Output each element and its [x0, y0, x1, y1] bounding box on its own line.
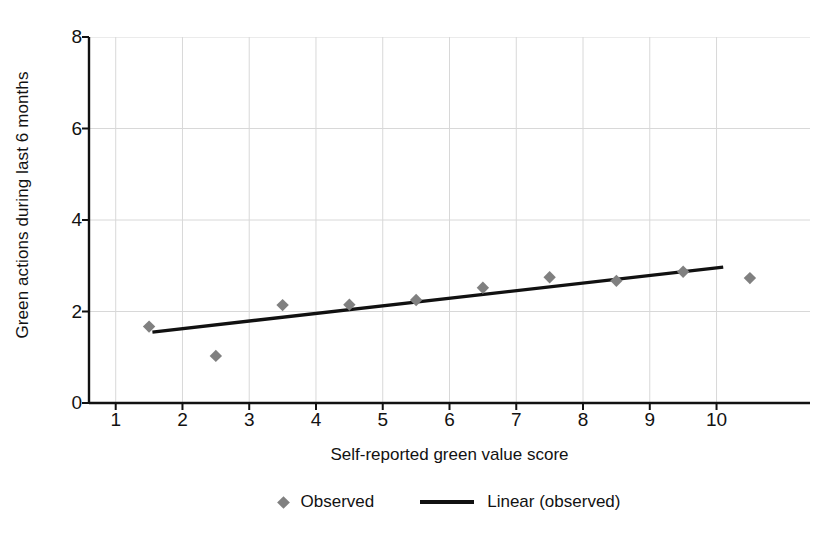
y-tick-label: 8: [52, 26, 82, 48]
legend-label: Linear (observed): [487, 492, 620, 512]
legend-diamond-icon: [277, 496, 290, 509]
data-point-observed: [276, 299, 288, 311]
x-tick-label: 8: [563, 409, 603, 431]
y-tick-label: 6: [52, 118, 82, 140]
x-tick-label: 10: [697, 409, 737, 431]
legend-line-icon: [420, 500, 474, 504]
x-axis-title: Self-reported green value score: [89, 445, 810, 465]
data-point-observed: [477, 282, 489, 294]
legend-item[interactable]: Linear (observed): [420, 492, 620, 512]
chart-legend: ObservedLinear (observed): [89, 492, 810, 512]
x-tick-label: 3: [229, 409, 269, 431]
x-tick-label: 1: [96, 409, 136, 431]
plot-area: [89, 37, 810, 403]
chart-figure: Green actions during last 6 months 02468…: [0, 0, 835, 557]
y-axis-tick-labels: 02468: [46, 0, 82, 420]
plot-svg: [89, 37, 810, 403]
x-tick-label: 9: [630, 409, 670, 431]
x-tick-label: 4: [296, 409, 336, 431]
data-point-observed: [410, 294, 422, 306]
y-tick-label: 4: [52, 209, 82, 231]
x-tick-label: 6: [430, 409, 470, 431]
data-point-observed: [210, 350, 222, 362]
legend-item[interactable]: Observed: [279, 492, 375, 512]
data-point-observed: [610, 275, 622, 287]
x-axis-tick-labels: 12345678910: [0, 409, 835, 439]
y-tick-label: 2: [52, 301, 82, 323]
y-axis-title: Green actions during last 6 months: [0, 0, 46, 410]
y-axis-title-text: Green actions during last 6 months: [13, 71, 33, 338]
data-point-observed: [543, 271, 555, 283]
x-tick-label: 5: [363, 409, 403, 431]
data-point-observed: [677, 265, 689, 277]
legend-label: Observed: [301, 492, 375, 512]
trendline-linear-observed: [152, 267, 723, 332]
x-tick-label: 2: [162, 409, 202, 431]
x-tick-label: 7: [496, 409, 536, 431]
data-point-observed: [744, 272, 756, 284]
